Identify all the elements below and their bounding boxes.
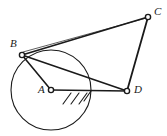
segment-bc bbox=[22, 17, 148, 55]
segment-cd bbox=[127, 17, 148, 91]
hatch-mark-2 bbox=[71, 93, 79, 104]
hatch-mark-1 bbox=[63, 93, 71, 104]
segments-layer bbox=[22, 17, 148, 91]
point-label-c: C bbox=[154, 6, 161, 17]
point-label-d: D bbox=[134, 84, 142, 95]
point-label-b: B bbox=[10, 38, 17, 49]
vertex-point-d bbox=[124, 88, 129, 93]
vertex-point-c bbox=[145, 14, 150, 19]
vertices-layer bbox=[19, 14, 150, 93]
geometry-canvas bbox=[0, 0, 167, 136]
segment-ad bbox=[51, 90, 127, 91]
geometry-figure: ABCD bbox=[0, 0, 167, 136]
point-label-a: A bbox=[38, 84, 45, 95]
vertex-point-a bbox=[48, 87, 53, 92]
hatching-layer bbox=[63, 91, 91, 104]
vertex-point-b bbox=[19, 52, 24, 57]
